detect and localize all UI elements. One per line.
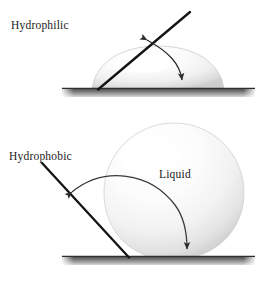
contact-angle-figure: Hydrophilic Hydrophobic Liquid — [0, 0, 269, 284]
hydrophobic-droplet — [104, 123, 244, 257]
droplet-sphere-shape — [104, 123, 244, 257]
figure-canvas — [0, 0, 269, 284]
hydrophilic-panel — [62, 12, 255, 97]
hydrophobic-substrate — [62, 256, 255, 265]
liquid-label: Liquid — [159, 168, 191, 180]
hydrophobic-panel — [42, 123, 255, 265]
hydrophilic-substrate — [62, 88, 255, 97]
hydrophobic-label: Hydrophobic — [9, 150, 72, 162]
substrate-slab-sheen — [62, 256, 255, 265]
hydrophilic-droplet — [92, 46, 224, 90]
hydrophilic-label: Hydrophilic — [11, 19, 69, 31]
substrate-slab-sheen — [62, 88, 255, 97]
droplet-highlight — [115, 53, 171, 73]
